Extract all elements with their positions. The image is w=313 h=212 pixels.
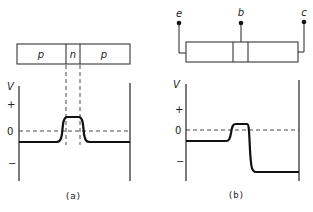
tick-zero: 0: [175, 125, 181, 136]
panel-b: e b c V + 0 − (b): [173, 7, 307, 200]
tick-plus: +: [7, 99, 15, 110]
terminal-label-b: b: [238, 7, 244, 18]
collector-lead: [298, 22, 304, 52]
region-p-left: p: [37, 49, 44, 60]
tick-minus: −: [176, 156, 184, 167]
caption-b: (b): [228, 190, 244, 200]
tick-minus: −: [8, 158, 16, 169]
tick-zero: 0: [7, 126, 13, 137]
emitter-lead: [179, 23, 186, 53]
potential-curve-a: [19, 117, 130, 142]
potential-curve-b: [186, 124, 299, 172]
terminal-label-c: c: [301, 7, 307, 18]
transistor-bar: [186, 42, 298, 62]
v-axis-label: V: [7, 81, 15, 92]
panel-a: p n p V + 0 − (a): [7, 44, 130, 201]
tick-plus: +: [175, 104, 183, 115]
diagram-canvas: p n p V + 0 − (a) e b c: [0, 0, 313, 212]
region-p-right: p: [100, 49, 107, 60]
caption-a: (a): [65, 191, 81, 201]
terminal-label-e: e: [176, 8, 182, 19]
region-n: n: [70, 49, 76, 60]
v-axis-label: V: [173, 79, 181, 90]
